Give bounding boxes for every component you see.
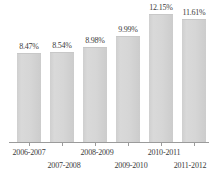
bar bbox=[83, 47, 107, 142]
bar-value-label: 8.54% bbox=[52, 41, 72, 50]
x-axis-category-label: 2011-2012 bbox=[174, 161, 207, 170]
x-axis-category-label: 2007-2008 bbox=[48, 161, 81, 170]
bar bbox=[116, 36, 140, 142]
plot-area: 8.47% 8.54% 8.98% 9.99% 12.15% 11.61% bbox=[0, 0, 218, 143]
x-axis-category-label: 2006-2007 bbox=[13, 148, 46, 157]
bar-group: 12.15% bbox=[149, 0, 173, 143]
bar bbox=[50, 52, 74, 142]
x-axis-category-label: 2008-2009 bbox=[81, 148, 114, 157]
bar-value-label: 9.99% bbox=[118, 25, 138, 34]
bar-value-label: 8.47% bbox=[19, 42, 39, 51]
x-axis-category-label: 2010-2011 bbox=[148, 148, 181, 157]
bar-value-label: 12.15% bbox=[149, 3, 172, 12]
x-axis-tick bbox=[194, 143, 195, 146]
bar bbox=[149, 14, 173, 142]
x-axis-category-label: 2009-2010 bbox=[115, 161, 148, 170]
bar-value-label: 8.98% bbox=[85, 36, 105, 45]
bar-value-label: 11.61% bbox=[182, 8, 205, 17]
x-axis-tick bbox=[128, 143, 129, 146]
bar-group: 8.47% bbox=[17, 0, 41, 143]
bar-group: 11.61% bbox=[182, 0, 206, 143]
bar bbox=[17, 53, 41, 142]
x-axis-tick bbox=[62, 143, 63, 146]
bar bbox=[182, 19, 206, 142]
bar-group: 8.54% bbox=[50, 0, 74, 143]
x-axis-tick bbox=[161, 143, 162, 146]
bar-chart: 8.47% 8.54% 8.98% 9.99% 12.15% 11.61% bbox=[0, 0, 218, 180]
bar-group: 9.99% bbox=[116, 0, 140, 143]
bar-group: 8.98% bbox=[83, 0, 107, 143]
x-axis-line bbox=[9, 142, 209, 143]
x-axis-tick bbox=[29, 143, 30, 146]
x-axis-tick bbox=[95, 143, 96, 146]
